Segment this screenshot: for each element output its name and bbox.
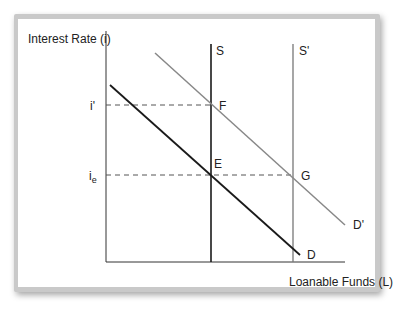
demand-curve-D — [110, 85, 300, 255]
G-label: G — [301, 169, 310, 183]
x-axis-title: Loanable Funds (L) — [289, 275, 393, 289]
demand-curve-D-prime — [155, 53, 345, 225]
y-axis-title: Interest Rate (i) — [28, 32, 111, 46]
D-prime-label: D' — [353, 218, 364, 232]
i-prime-label: i' — [90, 99, 95, 113]
loanable-funds-chart: Interest Rate (i) Loanable Funds (L) i' … — [0, 0, 400, 313]
F-label: F — [219, 99, 226, 113]
S-prime-label: S' — [299, 44, 309, 58]
S-label: S — [216, 44, 224, 58]
E-label: E — [214, 157, 222, 171]
D-label: D — [307, 248, 316, 262]
i-e-label: ie — [89, 169, 97, 185]
